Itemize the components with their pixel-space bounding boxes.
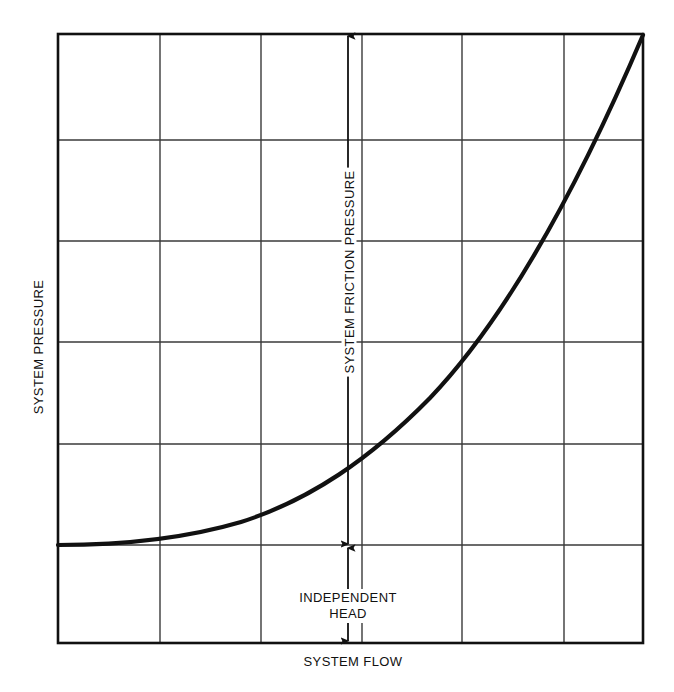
system-curve-figure: SYSTEM PRESSURE SYSTEM FLOW SYSTEM FRICT…	[0, 0, 674, 692]
independent-head-label-line2: HEAD	[299, 606, 397, 622]
y-axis-label: SYSTEM PRESSURE	[31, 280, 46, 415]
independent-head-label-line1: INDEPENDENT	[299, 590, 397, 606]
system-friction-pressure-label: SYSTEM FRICTION PRESSURE	[342, 167, 357, 376]
independent-head-label: INDEPENDENT HEAD	[295, 589, 401, 623]
x-axis-label: SYSTEM FLOW	[303, 654, 402, 669]
